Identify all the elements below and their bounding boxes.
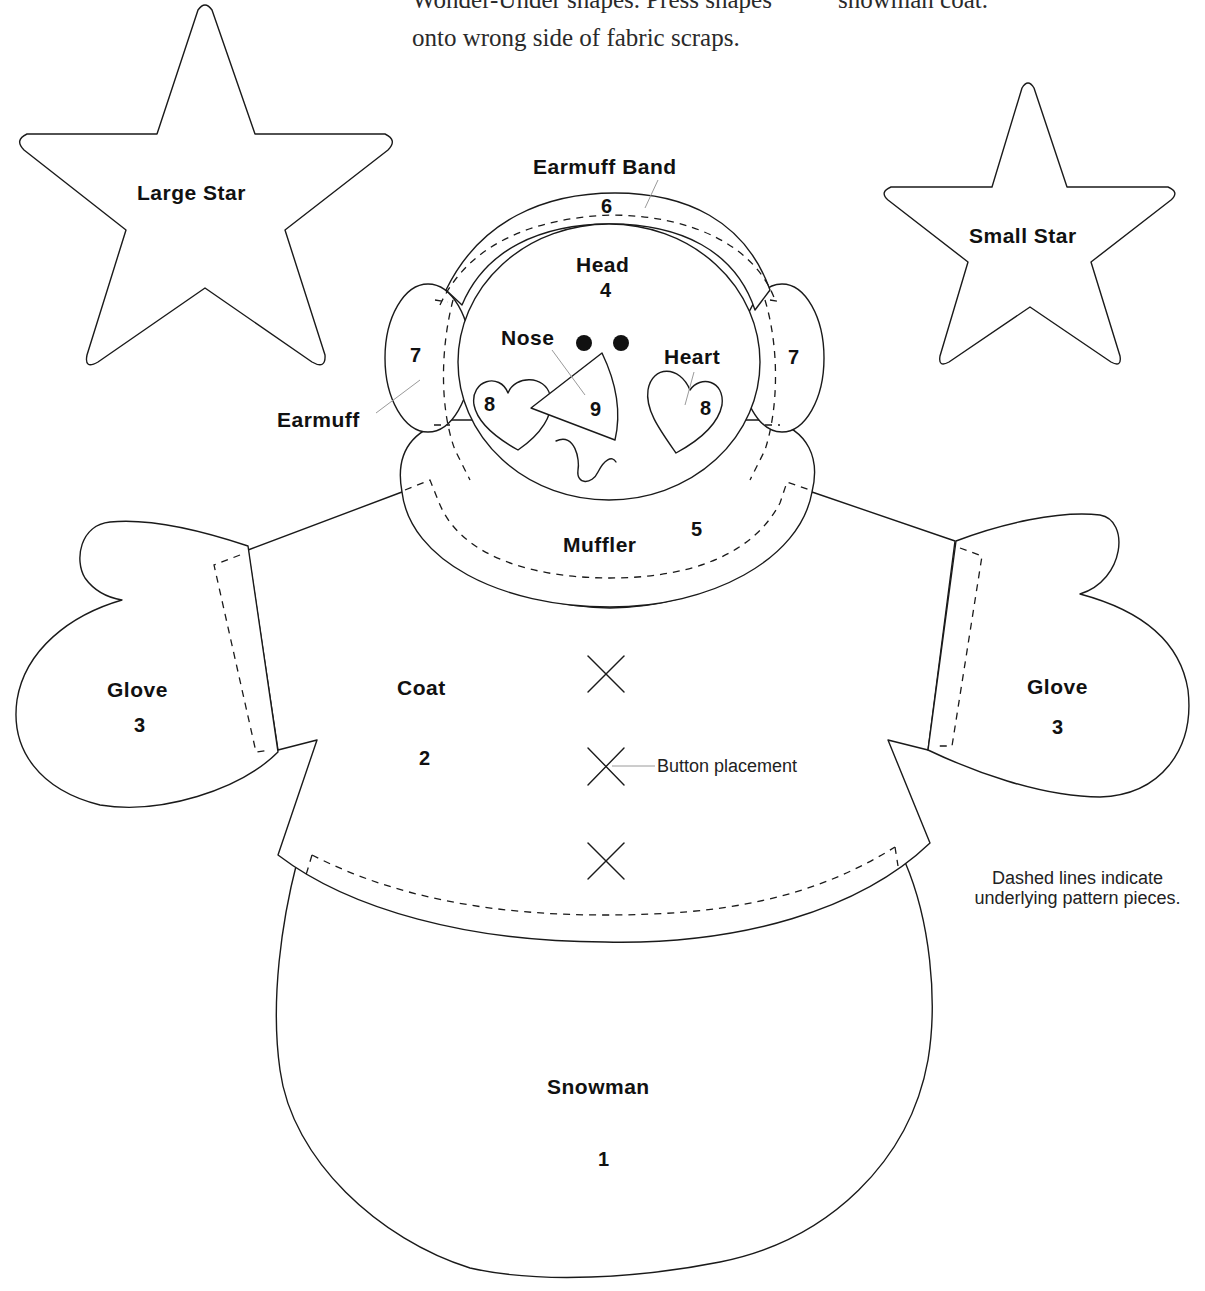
- glove-right-shape: [928, 514, 1189, 797]
- heart-label: Heart: [664, 345, 720, 369]
- glove-right-number: 3: [1052, 716, 1063, 739]
- eye-right: [613, 335, 629, 351]
- dashed-lines-note: Dashed lines indicate underlying pattern…: [950, 868, 1205, 908]
- pattern-page: Wonder-Under shapes. Press shapes snowma…: [0, 0, 1205, 1291]
- snowman-number: 1: [598, 1148, 609, 1171]
- eye-left: [576, 335, 592, 351]
- nose-number: 9: [590, 398, 601, 421]
- earmuff-left-number: 7: [410, 344, 421, 367]
- dashed-note-line-1: Dashed lines indicate: [950, 868, 1205, 888]
- glove-right-label: Glove: [1027, 675, 1088, 699]
- large-star-label: Large Star: [137, 181, 246, 205]
- heart-left-number: 8: [484, 393, 495, 416]
- glove-left-label: Glove: [107, 678, 168, 702]
- earmuff-label: Earmuff: [277, 408, 360, 432]
- muffler-label: Muffler: [563, 533, 637, 557]
- coat-number: 2: [419, 747, 430, 770]
- heart-right-number: 8: [700, 397, 711, 420]
- coat-label: Coat: [397, 676, 446, 700]
- head-label: Head: [576, 253, 629, 277]
- muffler-number: 5: [691, 518, 702, 541]
- dashed-note-line-2: underlying pattern pieces.: [950, 888, 1205, 908]
- snowman-label: Snowman: [547, 1075, 650, 1099]
- glove-left-shape: [16, 521, 278, 807]
- glove-left-number: 3: [134, 714, 145, 737]
- small-star-label: Small Star: [969, 224, 1077, 248]
- head-number: 4: [600, 279, 611, 302]
- nose-label: Nose: [501, 326, 554, 350]
- earmuff-band-number: 6: [601, 195, 612, 218]
- earmuff-band-label: Earmuff Band: [533, 155, 677, 179]
- earmuff-right-number: 7: [788, 346, 799, 369]
- button-placement-label: Button placement: [657, 756, 797, 776]
